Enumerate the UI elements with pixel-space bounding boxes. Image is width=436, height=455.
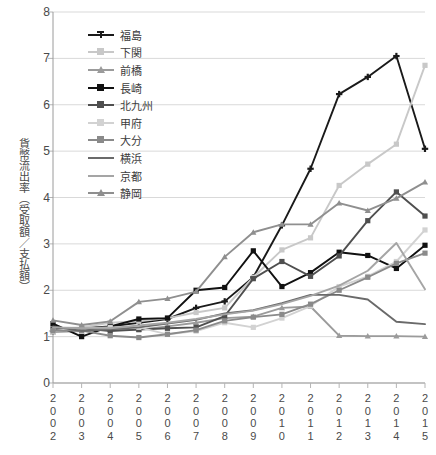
- y-tick-0: 0: [34, 376, 50, 390]
- legend-label: 静岡: [116, 185, 142, 201]
- line-chart: 貨幣流出率（受取額／支払額） 012345678 200220032004200…: [0, 0, 436, 455]
- legend-marker-icon: [86, 116, 116, 130]
- x-tick-2003: 2003: [73, 392, 91, 442]
- legend-marker-icon: [86, 81, 116, 95]
- x-tick-2012: 2012: [330, 392, 348, 442]
- legend-marker-icon: [86, 45, 116, 59]
- legend-label: 京都: [116, 168, 142, 184]
- y-axis-tick-labels: 012345678: [26, 0, 50, 400]
- legend-label: 北九州: [116, 97, 153, 113]
- legend-marker-icon: [86, 169, 116, 183]
- x-tick-2010: 2010: [273, 392, 291, 442]
- x-tick-2006: 2006: [158, 392, 176, 442]
- legend-item-8[interactable]: 京都: [86, 167, 170, 185]
- legend-marker-icon: [86, 151, 116, 165]
- y-tick-4: 4: [34, 191, 50, 205]
- legend-label: 福島: [116, 27, 142, 43]
- legend-marker-icon: [86, 186, 116, 200]
- legend-item-4[interactable]: 北九州: [86, 96, 170, 114]
- legend-item-1[interactable]: 下関: [86, 44, 170, 62]
- y-tick-8: 8: [34, 5, 50, 19]
- legend-marker-icon: [86, 133, 116, 147]
- plot-area: [0, 0, 436, 455]
- y-tick-3: 3: [34, 237, 50, 251]
- x-tick-2007: 2007: [187, 392, 205, 442]
- legend-label: 長崎: [116, 80, 142, 96]
- legend-item-3[interactable]: 長崎: [86, 79, 170, 97]
- y-tick-1: 1: [34, 330, 50, 344]
- x-tick-2008: 2008: [216, 392, 234, 442]
- x-tick-2009: 2009: [244, 392, 262, 442]
- y-tick-2: 2: [34, 283, 50, 297]
- legend-item-9[interactable]: 静岡: [86, 184, 170, 202]
- legend-item-2[interactable]: 前橋: [86, 61, 170, 79]
- x-tick-2002: 2002: [44, 392, 62, 442]
- legend-item-6[interactable]: 大分: [86, 132, 170, 150]
- legend-label: 横浜: [116, 150, 142, 166]
- legend-item-5[interactable]: 甲府: [86, 114, 170, 132]
- legend-item-0[interactable]: 福島: [86, 26, 170, 44]
- x-tick-2005: 2005: [130, 392, 148, 442]
- legend-marker-icon: [86, 63, 116, 77]
- y-tick-5: 5: [34, 144, 50, 158]
- x-tick-2011: 2011: [302, 392, 320, 442]
- legend-label: 前橋: [116, 62, 142, 78]
- x-tick-2013: 2013: [359, 392, 377, 442]
- y-tick-6: 6: [34, 98, 50, 112]
- y-tick-7: 7: [34, 51, 50, 65]
- legend-label: 甲府: [116, 115, 142, 131]
- x-tick-2014: 2014: [387, 392, 405, 442]
- legend-marker-icon: [86, 28, 116, 42]
- legend-label: 大分: [116, 132, 142, 148]
- legend-item-7[interactable]: 横浜: [86, 149, 170, 167]
- legend-marker-icon: [86, 98, 116, 112]
- chart-legend: 福島下関前橋長崎北九州甲府大分横浜京都静岡: [86, 26, 170, 202]
- legend-label: 下関: [116, 44, 142, 60]
- x-tick-2015: 2015: [416, 392, 434, 442]
- x-tick-2004: 2004: [101, 392, 119, 442]
